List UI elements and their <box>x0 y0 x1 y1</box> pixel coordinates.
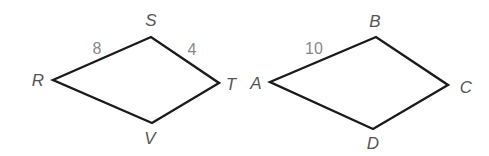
quadrilateral-abcd: A B C D 10 <box>249 12 473 153</box>
vertex-label-c: C <box>460 78 473 97</box>
vertex-label-v: V <box>144 129 157 148</box>
similar-quadrilaterals-diagram: R S T V 8 4 A B C D 10 <box>0 0 489 156</box>
quadrilateral-abcd-outline <box>270 37 448 129</box>
side-length-st: 4 <box>188 41 197 58</box>
quadrilateral-rstv: R S T V 8 4 <box>32 11 238 148</box>
side-length-ab: 10 <box>305 40 323 57</box>
vertex-label-d: D <box>367 134 379 153</box>
side-length-rs: 8 <box>93 40 102 57</box>
vertex-label-a: A <box>249 74 261 93</box>
vertex-label-b: B <box>369 12 380 31</box>
vertex-label-s: S <box>145 11 157 30</box>
vertex-label-t: T <box>226 75 238 94</box>
vertex-label-r: R <box>32 71 44 90</box>
